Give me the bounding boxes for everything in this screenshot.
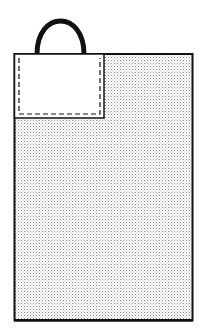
tote-bag-diagram bbox=[0, 0, 204, 332]
bag-pocket bbox=[15, 54, 105, 118]
bag-handle bbox=[37, 21, 84, 54]
